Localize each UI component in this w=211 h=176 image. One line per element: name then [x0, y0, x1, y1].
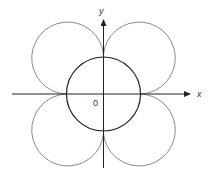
x-axis-label: x: [196, 89, 202, 99]
diagram-canvas: y x 0: [0, 0, 211, 176]
y-axis-label: y: [98, 6, 104, 16]
origin-label: 0: [93, 98, 98, 108]
